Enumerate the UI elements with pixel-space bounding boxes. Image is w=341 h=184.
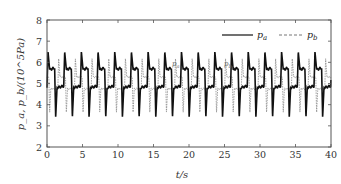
y-tick-label: 6 xyxy=(36,57,42,68)
y-tick-label: 7 xyxy=(36,36,42,47)
legend-pb-label: pb xyxy=(307,29,318,42)
x-tick-label: 5 xyxy=(79,149,85,160)
legend: pa pb xyxy=(222,29,318,42)
pressure-time-chart: 0510152025303540 2345678 pa pb pa pb t/s… xyxy=(0,0,341,184)
y-tick-label: 2 xyxy=(36,142,42,153)
x-tick-label: 10 xyxy=(112,149,124,160)
series-pa-line xyxy=(47,52,331,117)
x-axis-label: t/s xyxy=(176,169,189,180)
inline-label-pa: pa xyxy=(172,60,179,69)
x-tick-label: 20 xyxy=(183,149,195,160)
x-tick-label: 35 xyxy=(289,149,301,160)
y-axis-label: p_a, p_b/(10^5Pa) xyxy=(15,38,27,131)
x-tick-label: 40 xyxy=(325,149,337,160)
x-tick-label: 25 xyxy=(218,149,230,160)
x-tick-label: 30 xyxy=(254,149,266,160)
legend-pa-label: pa xyxy=(257,29,267,42)
pa-curve xyxy=(47,52,331,117)
y-tick-label: 8 xyxy=(36,15,42,26)
y-tick-label: 3 xyxy=(36,120,42,131)
y-tick-label: 5 xyxy=(36,78,42,89)
x-tick-label: 15 xyxy=(147,149,159,160)
y-tick-label: 4 xyxy=(36,99,42,110)
x-tick-label: 0 xyxy=(44,149,50,160)
